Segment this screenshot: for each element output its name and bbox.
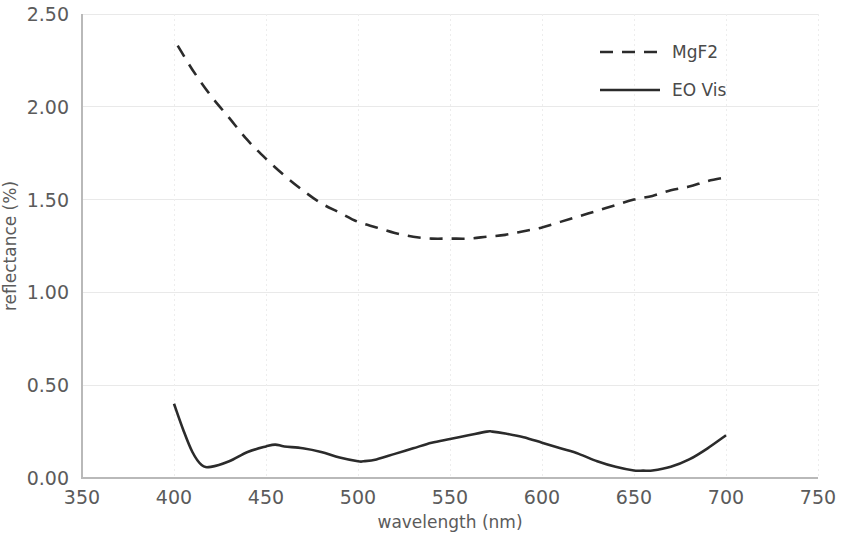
y-axis-title: reflectance (%) bbox=[0, 181, 20, 311]
x-tick-label: 750 bbox=[800, 486, 836, 508]
y-tick-label: 2.50 bbox=[27, 3, 69, 25]
y-tick-label: 1.50 bbox=[27, 189, 69, 211]
x-tick-label: 700 bbox=[708, 486, 744, 508]
x-tick-label: 550 bbox=[432, 486, 468, 508]
reflectance-line-chart: 0.000.501.001.502.002.50 350400450500550… bbox=[0, 0, 850, 536]
x-tick-label: 350 bbox=[64, 486, 100, 508]
y-tick-label: 2.00 bbox=[27, 96, 69, 118]
y-axis-tick-labels: 0.000.501.001.502.002.50 bbox=[27, 3, 69, 489]
legend-label-eo-vis: EO Vis bbox=[672, 80, 727, 100]
chart-figure: 0.000.501.001.502.002.50 350400450500550… bbox=[0, 0, 850, 536]
x-tick-label: 600 bbox=[524, 486, 560, 508]
legend-label-mgf2: MgF2 bbox=[672, 42, 718, 62]
x-axis-tick-labels: 350400450500550600650700750 bbox=[64, 486, 836, 508]
x-tick-label: 650 bbox=[616, 486, 652, 508]
x-tick-label: 400 bbox=[156, 486, 192, 508]
y-tick-label: 0.00 bbox=[27, 467, 69, 489]
y-tick-label: 1.00 bbox=[27, 281, 69, 303]
x-tick-label: 450 bbox=[248, 486, 284, 508]
y-tick-label: 0.50 bbox=[27, 374, 69, 396]
x-axis-title: wavelength (nm) bbox=[377, 512, 522, 532]
x-tick-label: 500 bbox=[340, 486, 376, 508]
